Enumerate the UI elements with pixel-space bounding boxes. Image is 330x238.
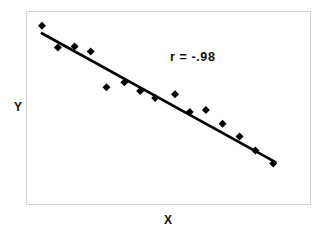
y-axis-label: Y [14,101,22,113]
plot-area-frame [26,11,311,205]
x-axis-label: X [164,214,172,226]
scatter-plot-figure: Y X r = -.98 [0,0,330,238]
correlation-annotation: r = -.98 [170,50,215,64]
